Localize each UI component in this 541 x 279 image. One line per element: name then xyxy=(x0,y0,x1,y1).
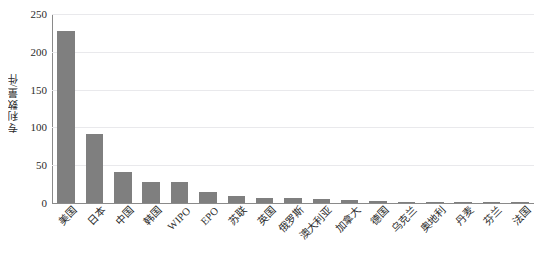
bar xyxy=(511,202,529,203)
bar xyxy=(114,172,132,203)
x-tick-label: 乌克兰 xyxy=(390,205,419,234)
y-tick-label: 100 xyxy=(31,122,48,133)
x-tick-label: 苏联 xyxy=(227,205,249,227)
x-tick-label: 日本 xyxy=(85,205,107,227)
bar xyxy=(483,202,501,203)
y-axis-title: 专利数量/件 xyxy=(4,0,22,205)
x-tick-label: EPO xyxy=(198,205,220,227)
x-axis-tick-labels: 美国日本中国韩国WIPOEPO苏联英国俄罗斯澳大利亚加拿大德国乌克兰奥地利丹麦芬… xyxy=(52,205,534,279)
x-tick-label: 丹麦 xyxy=(454,205,476,227)
x-tick-label: 加拿大 xyxy=(333,205,362,234)
x-tick-label: 韩国 xyxy=(142,205,164,227)
bar-series xyxy=(52,14,534,203)
bar xyxy=(171,182,189,203)
bar-chart-figure: 专利数量/件 050100150200250 美国日本中国韩国WIPOEPO苏联… xyxy=(0,0,541,279)
bar xyxy=(398,202,416,204)
bar xyxy=(256,198,274,203)
x-tick-label: 芬兰 xyxy=(482,205,504,227)
x-tick-label: 美国 xyxy=(57,205,79,227)
plot-area: 050100150200250 xyxy=(52,14,534,203)
x-tick-label: 法国 xyxy=(511,205,533,227)
y-axis-title-text: 专利数量/件 xyxy=(6,72,21,133)
y-tick-label: 50 xyxy=(36,160,47,171)
bar xyxy=(228,196,246,203)
y-tick-label: 0 xyxy=(42,198,48,209)
y-tick-label: 200 xyxy=(31,46,48,57)
x-tick-label: 中国 xyxy=(114,205,136,227)
x-tick-label: 德国 xyxy=(369,205,391,227)
bar xyxy=(284,198,302,203)
bar xyxy=(341,200,359,203)
bar xyxy=(369,201,387,203)
x-tick-label: 奥地利 xyxy=(419,205,448,234)
x-tick-label: WIPO xyxy=(165,205,192,232)
bar xyxy=(86,134,104,203)
bar xyxy=(454,202,472,203)
bar xyxy=(426,202,444,204)
bar xyxy=(199,192,217,203)
bar xyxy=(142,182,160,203)
bar xyxy=(313,199,331,203)
y-tick-label: 150 xyxy=(31,84,48,95)
x-axis-baseline xyxy=(52,203,534,204)
x-tick-label: 英国 xyxy=(255,205,277,227)
bar xyxy=(57,31,75,203)
y-tick-label: 250 xyxy=(31,9,48,20)
